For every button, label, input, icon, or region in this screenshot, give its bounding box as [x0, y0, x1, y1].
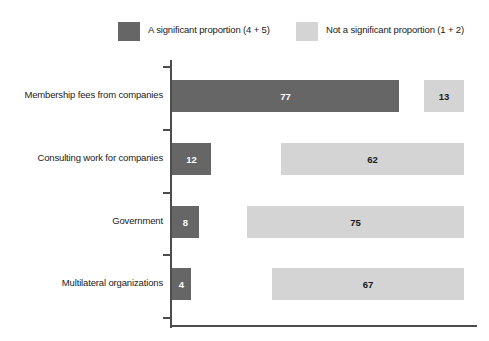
bar-value-not-significant: 62 [281, 143, 464, 175]
bar-value-not-significant: 67 [272, 268, 464, 300]
plot-area: Membership fees from companies 77 13 Con… [0, 58, 489, 333]
bar-significant: 12 [172, 143, 211, 175]
bar-not-significant: 62 [281, 143, 464, 175]
bar-value-significant: 77 [172, 80, 399, 112]
chart-row: Multilateral organizations 4 67 [0, 268, 489, 300]
bar-value-not-significant: 13 [424, 80, 464, 112]
category-label: Government [0, 215, 163, 226]
bar-value-significant: 12 [172, 143, 211, 175]
bar-significant: 4 [172, 268, 191, 300]
bar-not-significant: 67 [272, 268, 464, 300]
bar-not-significant: 75 [247, 206, 464, 238]
bar-value-significant: 4 [172, 268, 191, 300]
axis-tick [163, 66, 171, 68]
legend-label-significant: A significant proportion (4 + 5) [148, 24, 270, 35]
category-label: Multilateral organizations [0, 277, 163, 288]
bar-value-not-significant: 75 [247, 206, 464, 238]
legend-label-not-significant: Not a significant proportion (1 + 2) [326, 24, 464, 35]
category-label: Consulting work for companies [0, 152, 163, 163]
bar-significant: 77 [172, 80, 399, 112]
bar-not-significant: 13 [424, 80, 464, 112]
axis-tick [163, 254, 171, 256]
legend-swatch-not-significant [296, 22, 318, 41]
axis-tick [163, 317, 171, 319]
bar-value-significant: 8 [172, 206, 199, 238]
axis-tick [163, 129, 171, 131]
bar-significant: 8 [172, 206, 199, 238]
chart-row: Consulting work for companies 12 62 [0, 143, 489, 175]
bar-chart: A significant proportion (4 + 5) Not a s… [0, 0, 489, 341]
category-label: Membership fees from companies [0, 89, 163, 100]
chart-row: Membership fees from companies 77 13 [0, 80, 489, 112]
axis-tick [163, 192, 171, 194]
chart-legend: A significant proportion (4 + 5) Not a s… [0, 20, 489, 44]
x-axis-line [170, 325, 477, 327]
chart-row: Government 8 75 [0, 206, 489, 238]
legend-swatch-significant [118, 22, 140, 41]
